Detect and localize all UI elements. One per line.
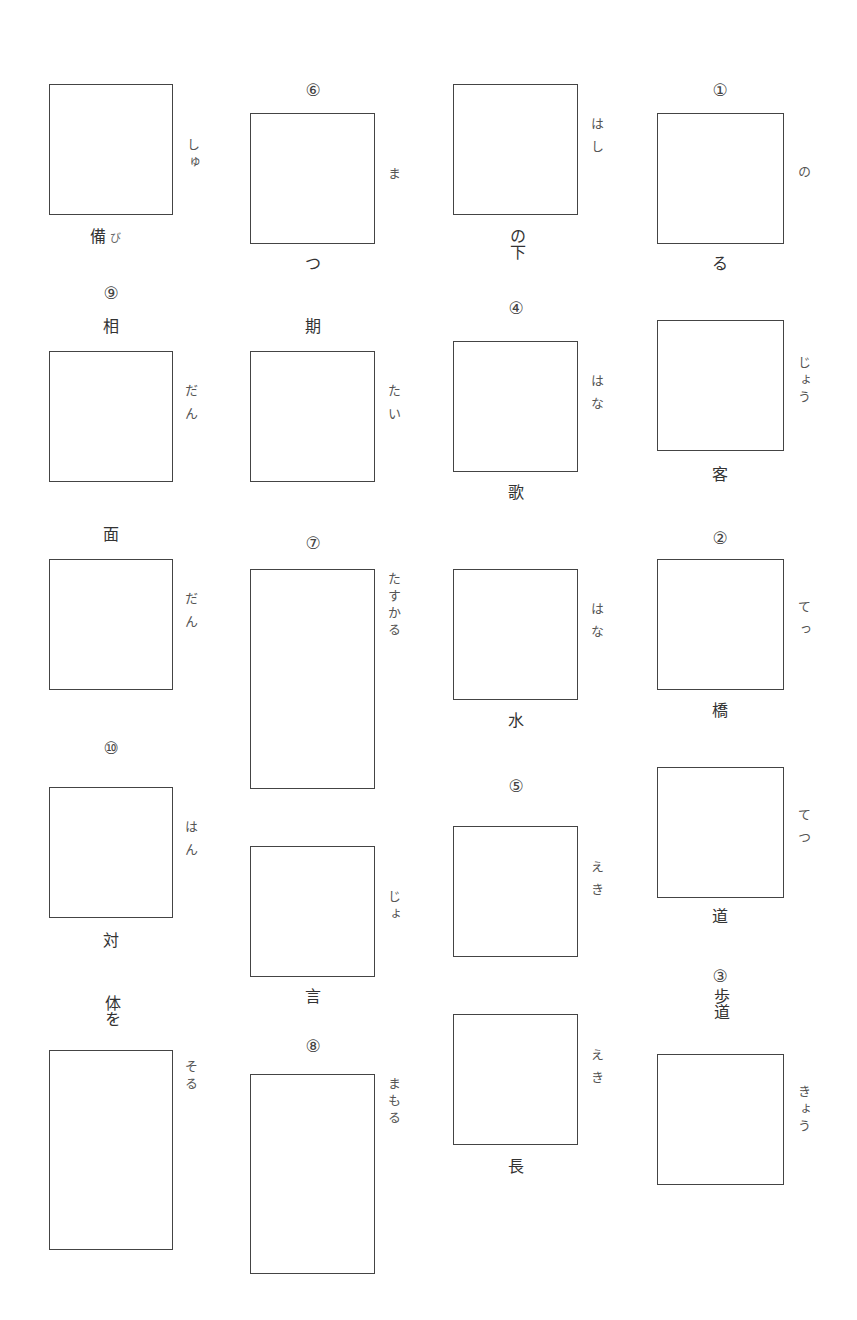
reading: じょ	[387, 890, 400, 924]
answer-box[interactable]	[49, 351, 173, 482]
reading: だん	[184, 592, 197, 638]
context-label: の下	[507, 228, 525, 260]
context-label: 言	[293, 988, 333, 1006]
question-number: ⑩	[91, 738, 131, 758]
context-label: 対	[91, 932, 131, 950]
question-number: ⑨	[91, 283, 131, 303]
reading: はな	[590, 602, 603, 648]
reading: きょう	[797, 1085, 810, 1136]
context-label: る	[700, 255, 740, 273]
reading: たい	[387, 384, 400, 430]
context-label: 歩道	[711, 988, 729, 1020]
answer-box[interactable]	[453, 826, 578, 957]
context-label: 歌	[496, 484, 536, 502]
context-label: 道	[700, 908, 740, 926]
answer-box[interactable]	[250, 113, 375, 244]
answer-box[interactable]	[453, 569, 578, 700]
context-suffix: び	[110, 232, 121, 245]
question-number: ⑧	[293, 1036, 333, 1056]
reading: えき	[590, 1048, 603, 1094]
answer-box[interactable]	[49, 84, 173, 215]
context-kanji: 備	[90, 227, 106, 246]
answer-box[interactable]	[49, 1050, 173, 1250]
answer-box[interactable]	[657, 113, 784, 244]
reading: しゅ	[186, 138, 199, 172]
reading: はん	[184, 820, 197, 866]
answer-box[interactable]	[49, 787, 173, 918]
question-number: ⑦	[293, 533, 333, 553]
question-number: ②	[700, 528, 740, 548]
reading: てっ	[797, 600, 810, 646]
context-label: つ	[293, 255, 333, 273]
question-number: ⑤	[496, 776, 536, 796]
reading: えき	[590, 860, 603, 906]
answer-box[interactable]	[453, 84, 578, 215]
context-label: 水	[496, 712, 536, 730]
reading: の	[797, 165, 810, 188]
question-number: ④	[496, 298, 536, 318]
answer-box[interactable]	[657, 767, 784, 898]
answer-box[interactable]	[250, 351, 375, 482]
reading: はな	[590, 374, 603, 420]
reading: じょう	[797, 356, 810, 407]
question-number: ①	[700, 80, 740, 100]
answer-box[interactable]	[657, 320, 784, 451]
reading: そる	[184, 1060, 197, 1094]
answer-box[interactable]	[250, 846, 375, 977]
reading: ま	[387, 167, 400, 190]
question-number: ⑥	[293, 80, 333, 100]
answer-box[interactable]	[49, 559, 173, 690]
context-label: 期	[293, 318, 333, 336]
context-label: 備び	[90, 228, 150, 246]
answer-box[interactable]	[250, 569, 375, 789]
context-label: 相	[91, 318, 131, 336]
answer-box[interactable]	[453, 341, 578, 472]
answer-box[interactable]	[657, 1054, 784, 1185]
context-label: 長	[496, 1158, 536, 1176]
reading: まもる	[387, 1077, 400, 1128]
reading: はし	[590, 117, 603, 163]
context-label: 客	[700, 466, 740, 484]
answer-box[interactable]	[453, 1014, 578, 1145]
reading: たすかる	[387, 572, 400, 640]
answer-box[interactable]	[657, 559, 784, 690]
reading: だん	[184, 384, 197, 430]
answer-box[interactable]	[250, 1074, 375, 1274]
context-label: 面	[91, 526, 131, 544]
context-label: 体を	[102, 995, 120, 1027]
context-label: 橋	[700, 702, 740, 720]
question-number: ③	[700, 966, 740, 986]
reading: てつ	[797, 808, 810, 854]
